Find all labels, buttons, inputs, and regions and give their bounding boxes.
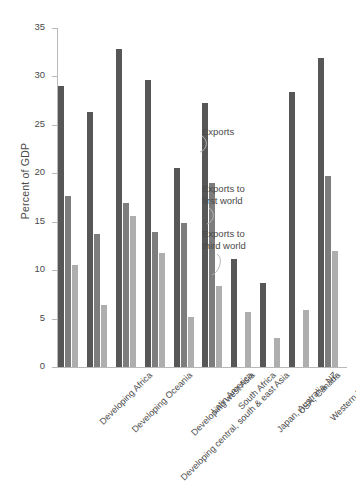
y-tick: 30 [52,76,57,77]
bar [181,223,187,367]
bar-group [87,28,116,367]
bar [325,176,331,367]
bar [209,183,215,367]
bar-group [289,28,318,367]
y-tick: 20 [52,173,57,174]
bar [145,80,151,367]
y-tick: 5 [52,319,57,320]
annotation-exports: Exports [202,126,234,138]
bar [245,312,251,367]
bar [188,317,194,367]
bar [101,305,107,367]
bar-group [58,28,87,367]
bar-group [318,28,347,367]
x-axis-labels: Developing AfricaDeveloping OceaniaDevel… [57,370,356,500]
bar [72,265,78,367]
bar [332,251,338,367]
bar [58,86,64,367]
bar [289,92,295,367]
bar [274,338,280,367]
y-tick-label: 15 [34,215,45,226]
x-axis-line [57,367,347,368]
bar [152,232,158,367]
bar [303,310,309,367]
bar-group [260,28,289,367]
bar-group [116,28,145,367]
bar [216,286,222,367]
y-tick: 15 [52,222,57,223]
y-tick: 35 [52,28,57,29]
bar [159,253,165,367]
bar [260,283,266,367]
y-tick-label: 35 [34,21,45,32]
y-tick-label: 10 [34,263,45,274]
bar-group [145,28,174,367]
annotation-exports-third-world: Exports to third world [202,228,246,251]
y-tick-label: 20 [34,166,45,177]
y-tick: 0 [52,367,57,368]
bar [116,49,122,367]
y-tick: 25 [52,125,57,126]
y-tick-label: 25 [34,118,45,129]
bar [318,58,324,367]
bar [123,203,129,367]
y-tick-label: 5 [40,312,45,323]
annotation-exports-first-world: Exports to first world [202,183,245,206]
bar [174,168,180,367]
bar-group [174,28,203,367]
bar [130,216,136,367]
bar [65,196,71,367]
bar [87,112,93,367]
bar [231,259,237,367]
y-tick-label: 0 [40,360,45,371]
bar [94,234,100,367]
bar-chart: Percent of GDP 05101520253035 Exports Ex… [0,0,356,503]
y-tick: 10 [52,270,57,271]
y-tick-label: 30 [34,69,45,80]
y-axis-title: Percent of GDP [19,121,31,241]
